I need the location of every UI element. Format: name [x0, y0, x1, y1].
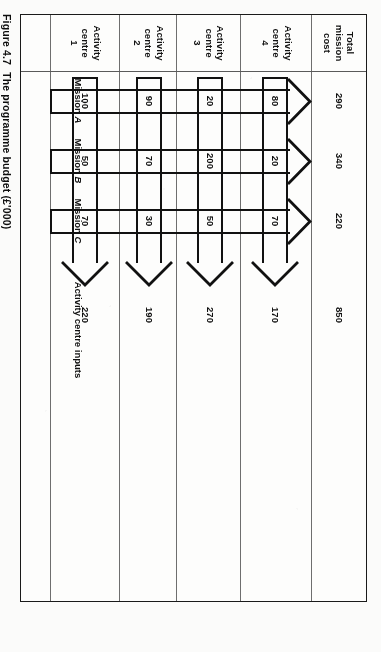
figure-caption-number: Figure 4.7	[1, 14, 13, 65]
row-header-ac1-name: Activity centre	[80, 15, 103, 71]
cell-ac2-input-total: 190	[144, 307, 155, 323]
figure-caption-text: The programme budget (£'000)	[1, 72, 13, 229]
cell-ac3-mission-c: 50	[205, 216, 216, 227]
scanned-page: Total mission cost Activity centre 4 Act…	[0, 0, 381, 652]
row-header-total-line1: Total	[345, 25, 357, 62]
row-header-ac3-number: 3	[192, 15, 204, 71]
row-header-activity-centre-1: Activity centre 1	[51, 15, 120, 71]
column-header-inputs-label: Activity centre inputs	[74, 282, 85, 379]
cell-ac3-input-total: 270	[205, 307, 216, 323]
activity-centre-3-arrowhead-icon	[185, 261, 235, 287]
cell-ac1-mission-c: 70	[80, 216, 91, 227]
total-mission-cost-a: 290	[334, 93, 345, 109]
rotated-page-wrapper: Total mission cost Activity centre 4 Act…	[0, 0, 381, 652]
cell-ac1-mission-a: 100	[80, 93, 91, 109]
row-header-activity-centre-3: Activity centre 3	[177, 15, 241, 71]
row-header-ac4-number: 4	[259, 15, 271, 71]
row-header-ac4-name: Activity centre	[271, 15, 294, 71]
cell-ac2-mission-c: 30	[144, 216, 155, 227]
cell-ac2-mission-b: 70	[144, 156, 155, 167]
cell-ac2-mission-a: 90	[144, 96, 155, 107]
mission-c-arrowhead-icon	[287, 197, 312, 246]
row-header-activity-centre-4: Activity centre 4	[241, 15, 312, 71]
row-header-total-line2: mission	[333, 25, 345, 62]
grand-total: 850	[334, 307, 345, 323]
cell-ac1-mission-b: 50	[80, 156, 91, 167]
row-header-activity-centre-2: Activity centre 2	[120, 15, 177, 71]
activity-centre-2-arrowhead-icon	[124, 261, 174, 287]
row-header-total-mission-cost: Total mission cost	[312, 15, 366, 71]
row-header-total-line3: cost	[322, 25, 334, 62]
total-mission-cost-b: 340	[334, 153, 345, 169]
activity-centre-1-arrowhead-icon	[60, 261, 110, 287]
mission-a-arrowhead-icon	[287, 77, 312, 126]
row-header-blank	[21, 15, 51, 71]
row-header-ac2-number: 2	[131, 15, 143, 71]
row-header-ac2-name: Activity centre	[143, 15, 166, 71]
total-mission-cost-c: 220	[334, 213, 345, 229]
cell-ac4-mission-c: 70	[270, 216, 281, 227]
activity-centre-4-arrowhead-icon	[250, 261, 300, 287]
cell-ac1-input-total: 220	[80, 307, 91, 323]
row-header-ac3-name: Activity centre	[203, 15, 226, 71]
cell-ac3-mission-a: 20	[205, 96, 216, 107]
cell-ac4-mission-b: 20	[270, 156, 281, 167]
figure-frame: Total mission cost Activity centre 4 Act…	[20, 14, 367, 602]
cell-ac4-mission-a: 80	[270, 96, 281, 107]
mission-b-arrowhead-icon	[287, 137, 312, 186]
cell-ac3-mission-b: 200	[205, 153, 216, 169]
figure-caption: Figure 4.7The programme budget (£'000)	[1, 14, 13, 229]
row-header-ac1-number: 1	[68, 15, 80, 71]
cell-ac4-input-total: 170	[270, 307, 281, 323]
